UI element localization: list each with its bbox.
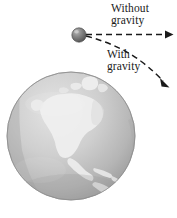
label-without-gravity-line2: gravity — [111, 14, 149, 26]
label-without-gravity: Without gravity — [111, 2, 149, 26]
earth-globe — [7, 72, 136, 218]
label-with-gravity: With gravity — [107, 48, 140, 72]
without-gravity-path-arrow — [86, 31, 174, 39]
label-with-gravity-line1: With — [107, 48, 140, 60]
label-with-gravity-line2: gravity — [107, 60, 140, 72]
projectile-gravity-figure: Without gravity With gravity — [0, 0, 177, 218]
label-without-gravity-line1: Without — [111, 2, 149, 14]
projectile-ball — [72, 28, 86, 42]
figure-canvas — [0, 0, 177, 218]
